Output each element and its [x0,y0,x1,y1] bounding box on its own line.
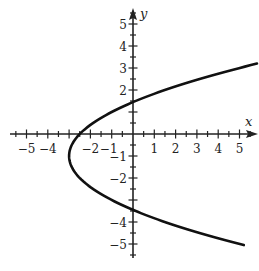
y-tick-label: −1 [109,150,127,164]
parabola-chart: x y −5−4−2−112345−5−4−2−12345 [0,0,259,271]
x-tick-label: 1 [150,142,158,156]
y-tick-label: −5 [109,238,127,252]
x-tick-label: −2 [82,142,100,156]
y-axis-label: y [139,6,148,21]
x-axis-label: x [245,114,253,129]
x-tick-label: −4 [39,142,57,156]
y-tick-label: 3 [119,62,127,76]
x-tick-label: 3 [193,142,201,156]
y-tick-label: 4 [119,40,127,54]
x-tick-label: −5 [18,142,36,156]
x-tick-label: 5 [236,142,244,156]
y-tick-label: −2 [109,172,127,186]
y-tick-label: 5 [119,18,127,32]
x-tick-label: 2 [172,142,180,156]
y-tick-label: 2 [119,84,127,98]
y-tick-label: −4 [109,216,127,230]
x-tick-label: 4 [214,142,222,156]
